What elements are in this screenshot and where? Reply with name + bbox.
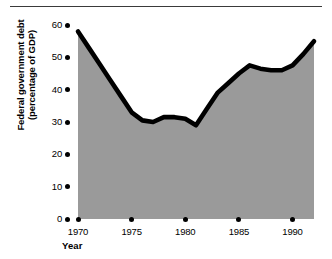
y-axis-tick-dot — [65, 184, 70, 189]
y-axis-tick: 10 — [26, 181, 70, 193]
x-axis-tick-label: 1985 — [216, 226, 262, 237]
x-axis-tick-label: 1975 — [109, 226, 155, 237]
x-axis-tick-dot — [183, 217, 188, 222]
y-axis-title-line2: (percentage of GDP) — [26, 30, 38, 120]
y-axis-tick-dot — [65, 217, 70, 222]
y-axis-tick-dot — [65, 152, 70, 157]
x-axis-tick-dot — [290, 217, 295, 222]
y-axis-tick-dot — [65, 23, 70, 28]
x-axis-title: Year — [62, 240, 82, 251]
y-axis-tick-dot — [65, 120, 70, 125]
x-axis-tick-label: 1980 — [162, 226, 208, 237]
top-divider-rule — [10, 6, 322, 7]
plot-area — [78, 25, 314, 219]
y-axis-tick: 40 — [26, 84, 70, 96]
y-axis-tick-label: 40 — [52, 84, 62, 96]
y-axis-tick-label: 0 — [57, 213, 62, 225]
y-axis-tick-dot — [65, 55, 70, 60]
y-axis-tick: 0 — [26, 213, 70, 225]
y-axis-tick-dot — [65, 87, 70, 92]
y-axis-tick: 20 — [26, 148, 70, 160]
y-axis-tick-label: 50 — [52, 51, 62, 63]
y-axis-title-line1: Federal government debt — [14, 19, 26, 130]
y-axis-tick-label: 10 — [52, 181, 62, 193]
y-axis-tick: 60 — [26, 19, 70, 31]
chart-figure: Federal government debt (percentage of G… — [0, 0, 332, 259]
y-axis-tick: 50 — [26, 51, 70, 63]
x-axis-tick-label: 1990 — [270, 226, 316, 237]
x-axis-tick-label: 1970 — [55, 226, 101, 237]
y-axis-tick-label: 30 — [52, 116, 62, 128]
area-chart-svg — [78, 25, 314, 219]
y-axis-tick-label: 20 — [52, 148, 62, 160]
x-axis-tick-dot — [129, 217, 134, 222]
x-axis-tick-dot — [76, 217, 81, 222]
x-axis-tick-dot — [236, 217, 241, 222]
y-axis-tick: 30 — [26, 116, 70, 128]
y-axis-tick-label: 60 — [52, 19, 62, 31]
